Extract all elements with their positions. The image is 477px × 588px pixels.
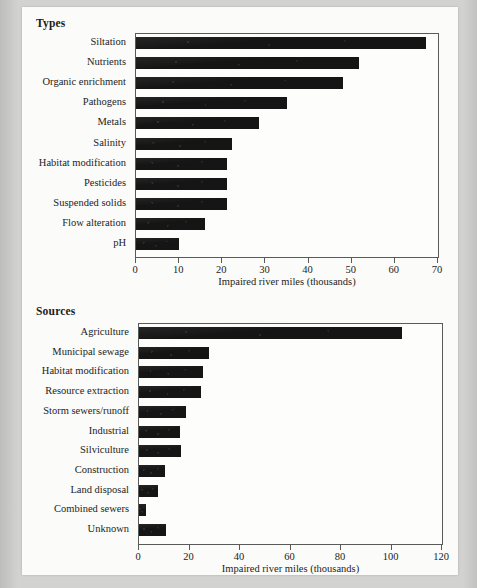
figure-title-sources: Sources bbox=[36, 305, 76, 317]
bar-storm-sewers-runoff bbox=[139, 406, 186, 418]
category-label: Municipal sewage bbox=[52, 346, 129, 358]
x-axis-tick-label: 10 bbox=[173, 264, 184, 275]
bar-habitat-modification bbox=[136, 158, 227, 170]
bar-organic-enrichment bbox=[136, 77, 343, 89]
x-axis-tick-label: 100 bbox=[383, 551, 399, 562]
category-label: Agriculture bbox=[81, 326, 129, 338]
category-label: Industrial bbox=[89, 425, 129, 437]
category-label: Nutrients bbox=[87, 56, 126, 68]
bar-ph bbox=[136, 238, 179, 250]
bar-municipal-sewage bbox=[139, 347, 209, 359]
x-axis-tick bbox=[221, 258, 222, 263]
x-axis-tick-label: 70 bbox=[432, 264, 443, 275]
bar-agriculture bbox=[139, 327, 402, 339]
bar-resource-extraction bbox=[139, 386, 201, 398]
bar-nutrients bbox=[136, 57, 359, 69]
category-label: Habitat modification bbox=[42, 365, 129, 377]
category-label: Siltation bbox=[90, 36, 126, 48]
x-axis-tick-label: 40 bbox=[302, 264, 313, 275]
bars-sources bbox=[139, 324, 442, 544]
x-axis-tick bbox=[351, 258, 352, 263]
category-label: Storm sewers/runoff bbox=[43, 405, 129, 417]
x-axis-tick-label: 30 bbox=[259, 264, 270, 275]
x-axis-tick-label: 20 bbox=[183, 551, 194, 562]
category-label: Suspended solids bbox=[53, 197, 126, 209]
x-axis-tick bbox=[189, 545, 190, 550]
x-axis-tick bbox=[239, 545, 240, 550]
bar-pathogens bbox=[136, 97, 287, 109]
document-page: Types SiltationNutrientsOrganic enrichme… bbox=[22, 7, 458, 575]
x-axis-tick bbox=[441, 545, 442, 550]
x-axis-tick bbox=[290, 545, 291, 550]
x-axis-title-sources: Impaired river miles (thousands) bbox=[138, 563, 443, 574]
bar-construction bbox=[139, 465, 165, 477]
category-label: Flow alteration bbox=[62, 217, 126, 229]
x-axis-title-types: Impaired river miles (thousands) bbox=[135, 276, 439, 287]
figure-types: Types SiltationNutrientsOrganic enrichme… bbox=[22, 11, 458, 295]
category-label: Construction bbox=[75, 464, 129, 476]
category-label: Land disposal bbox=[70, 484, 129, 496]
x-axis-tick-label: 0 bbox=[132, 264, 137, 275]
bar-silviculture bbox=[139, 445, 181, 457]
x-axis-tick bbox=[437, 258, 438, 263]
bar-siltation bbox=[136, 37, 426, 49]
category-label: Combined sewers bbox=[54, 503, 129, 515]
bar-salinity bbox=[136, 138, 232, 150]
x-axis-tick-label: 80 bbox=[335, 551, 346, 562]
x-axis-tick-label: 50 bbox=[345, 264, 356, 275]
bar-industrial bbox=[139, 426, 180, 438]
category-label: Silviculture bbox=[80, 444, 129, 456]
bar-metals bbox=[136, 117, 259, 129]
x-axis-tick bbox=[264, 258, 265, 263]
bar-suspended-solids bbox=[136, 198, 227, 210]
category-label: Metals bbox=[97, 116, 126, 128]
x-axis-tick-label: 60 bbox=[389, 264, 400, 275]
x-axis-tick-label: 120 bbox=[433, 551, 449, 562]
bars-types bbox=[136, 34, 438, 257]
bar-combined-sewers bbox=[139, 504, 146, 516]
category-label: Unknown bbox=[88, 523, 129, 535]
x-axis-tick bbox=[178, 258, 179, 263]
figure-title-types: Types bbox=[36, 17, 66, 29]
x-axis-tick-label: 20 bbox=[216, 264, 227, 275]
category-label: Salinity bbox=[93, 137, 126, 149]
bar-habitat-modification bbox=[139, 366, 203, 378]
category-label: pH bbox=[113, 237, 126, 249]
category-label: Organic enrichment bbox=[43, 76, 126, 88]
x-axis-tick-label: 40 bbox=[234, 551, 245, 562]
x-axis-tick bbox=[340, 545, 341, 550]
x-axis-tick bbox=[394, 258, 395, 263]
x-axis-tick bbox=[391, 545, 392, 550]
x-axis-tick bbox=[135, 258, 136, 263]
category-label: Pathogens bbox=[83, 96, 126, 108]
category-label: Resource extraction bbox=[45, 385, 129, 397]
x-axis-tick-label: 60 bbox=[284, 551, 295, 562]
bar-unknown bbox=[139, 524, 166, 536]
plot-area-types bbox=[135, 33, 439, 258]
category-label: Pesticides bbox=[84, 177, 126, 189]
plot-area-sources bbox=[138, 323, 443, 545]
x-axis-tick-label: 0 bbox=[135, 551, 140, 562]
bar-pesticides bbox=[136, 178, 227, 190]
figure-sources: Sources AgricultureMunicipal sewageHabit… bbox=[22, 299, 458, 575]
x-axis-tick bbox=[138, 545, 139, 550]
bar-land-disposal bbox=[139, 485, 158, 497]
bar-flow-alteration bbox=[136, 218, 205, 230]
x-axis-tick bbox=[308, 258, 309, 263]
category-label: Habitat modification bbox=[39, 157, 126, 169]
